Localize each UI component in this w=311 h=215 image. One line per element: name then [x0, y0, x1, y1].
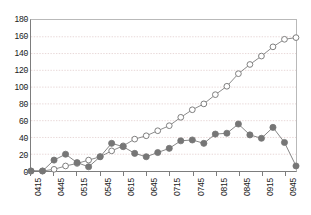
y-axis-tick-mark	[25, 172, 28, 173]
data-point-filled-circle	[109, 140, 115, 146]
data-point-open-circle	[155, 128, 161, 134]
data-point-filled-circle	[86, 164, 92, 170]
data-point-open-circle	[293, 35, 299, 41]
data-point-open-circle	[86, 157, 92, 163]
data-point-filled-circle	[51, 157, 57, 163]
data-point-open-circle	[212, 92, 218, 98]
data-point-filled-circle	[235, 121, 241, 127]
plot-area	[30, 19, 297, 172]
data-point-filled-circle	[212, 131, 218, 137]
data-point-filled-circle	[201, 140, 207, 146]
data-point-filled-circle	[258, 135, 264, 141]
y-axis-tick-mark	[25, 36, 28, 37]
data-point-filled-circle	[189, 137, 195, 143]
data-point-open-circle	[178, 114, 184, 120]
data-point-filled-circle	[97, 154, 103, 160]
x-axis-tick-label: 0715	[173, 178, 182, 196]
y-axis-tick-mark	[25, 155, 28, 156]
y-axis-tick-mark	[25, 70, 28, 71]
x-axis: 0415044505150545061506450715074508150845…	[30, 172, 297, 215]
x-axis-tick-label: 0545	[104, 178, 113, 196]
x-axis-tick-label: 0415	[34, 178, 43, 196]
data-point-open-circle	[63, 163, 69, 169]
data-point-open-circle	[109, 148, 115, 154]
x-axis-tick-mark	[193, 172, 194, 176]
data-point-filled-circle	[132, 150, 138, 156]
data-point-open-circle	[236, 71, 242, 77]
data-point-filled-circle	[270, 124, 276, 130]
x-axis-tick-mark	[146, 172, 147, 176]
x-axis-tick-label: 0945	[289, 178, 298, 196]
x-axis-tick-mark	[100, 172, 101, 176]
data-point-filled-circle	[166, 145, 172, 151]
x-axis-tick-label: 0745	[197, 178, 206, 196]
data-point-open-circle	[132, 136, 138, 142]
data-point-filled-circle	[281, 139, 287, 145]
x-axis-tick-label: 0445	[57, 178, 66, 196]
x-axis-tick-label: 0915	[266, 178, 275, 196]
series-line	[31, 124, 296, 171]
x-axis-tick-label: 0515	[80, 178, 89, 196]
data-point-open-circle	[224, 83, 230, 89]
data-point-filled-circle	[247, 132, 253, 138]
x-axis-tick-mark	[76, 172, 77, 176]
series-layer	[31, 20, 296, 171]
y-axis-tick-mark	[25, 19, 28, 20]
series-line	[31, 38, 296, 171]
data-point-open-circle	[143, 133, 149, 139]
data-point-open-circle	[166, 123, 172, 129]
x-axis-tick-mark	[262, 172, 263, 176]
x-axis-tick-mark	[53, 172, 54, 176]
data-point-open-circle	[259, 53, 265, 59]
x-axis-tick-label: 0845	[243, 178, 252, 196]
data-point-filled-circle	[143, 154, 149, 160]
x-axis-tick-mark	[216, 172, 217, 176]
x-axis-tick-label: 0615	[127, 178, 136, 196]
data-point-filled-circle	[62, 151, 68, 157]
data-point-filled-circle	[178, 138, 184, 144]
data-point-filled-circle	[155, 149, 161, 155]
data-point-filled-circle	[74, 160, 80, 166]
data-point-open-circle	[247, 62, 253, 68]
x-axis-tick-label: 0645	[150, 178, 159, 196]
y-axis-tick-mark	[25, 121, 28, 122]
data-point-filled-circle	[293, 163, 299, 169]
x-axis-tick-mark	[169, 172, 170, 176]
x-axis-tick-mark	[285, 172, 286, 176]
x-axis-tick-label: 0815	[220, 178, 229, 196]
x-axis-tick-mark	[239, 172, 240, 176]
data-point-filled-circle	[224, 130, 230, 136]
y-axis-tick-mark	[25, 87, 28, 88]
y-axis-tick-mark	[25, 53, 28, 54]
line-chart: 020406080100120140160180 041504450515054…	[0, 0, 311, 215]
y-axis-tick-mark	[25, 138, 28, 139]
x-axis-tick-mark	[30, 172, 31, 176]
data-point-filled-circle	[120, 144, 126, 150]
data-point-open-circle	[270, 44, 276, 50]
data-point-open-circle	[201, 101, 207, 107]
y-axis: 020406080100120140160180	[0, 19, 28, 172]
y-axis-tick-mark	[25, 104, 28, 105]
data-point-open-circle	[189, 107, 195, 113]
data-point-open-circle	[282, 36, 288, 42]
x-axis-tick-mark	[123, 172, 124, 176]
